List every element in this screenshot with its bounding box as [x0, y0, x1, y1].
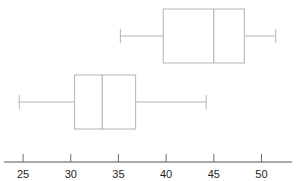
x-axis-tick-label-5: 50 [255, 168, 267, 180]
lower-boxplot-box [75, 75, 136, 129]
boxplot-figure: 25 30 35 40 45 50 [0, 0, 298, 181]
x-axis-tick-label-4: 45 [208, 168, 220, 180]
x-axis: 25 30 35 40 45 50 [4, 154, 292, 180]
upper-boxplot-group [120, 9, 275, 63]
x-axis-tick-label-0: 25 [17, 168, 29, 180]
boxplot-chart-canvas: 25 30 35 40 45 50 [0, 0, 298, 181]
x-axis-tick-label-2: 35 [112, 168, 124, 180]
x-axis-tick-label-1: 30 [65, 168, 77, 180]
x-axis-tick-label-3: 40 [160, 168, 172, 180]
upper-boxplot-box [163, 9, 244, 63]
lower-boxplot-group [19, 75, 206, 129]
